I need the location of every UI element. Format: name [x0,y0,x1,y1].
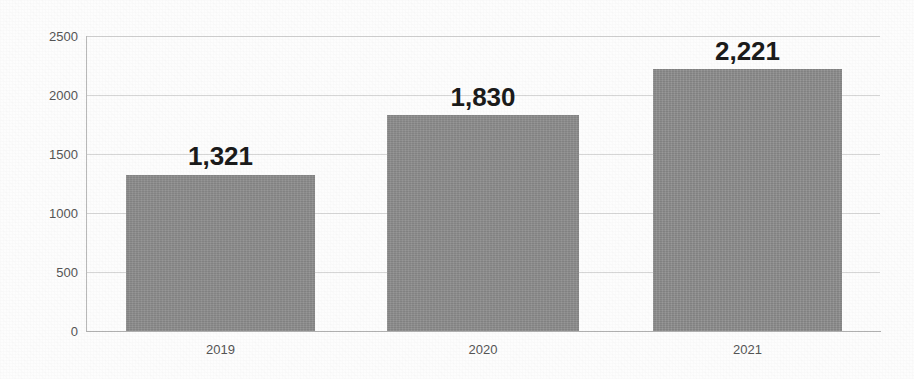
bar-2019 [126,175,315,331]
bar-value-label-2021: 2,221 [653,38,842,64]
x-tick-label-2019: 2019 [126,343,315,356]
bar-2020 [387,115,579,331]
bar-value-label-2020: 1,830 [387,84,579,110]
y-tick-label-500: 500 [56,266,78,279]
y-axis-line [86,36,87,332]
y-tick-label-1000: 1000 [49,207,78,220]
x-tick-label-2020: 2020 [387,343,579,356]
y-tick-label-2500: 2500 [49,30,78,43]
x-axis-line [86,331,881,332]
y-tick-label-2000: 2000 [49,89,78,102]
bar-value-label-2019: 1,321 [126,143,315,169]
y-axis-tick-labels: 2500 2000 1500 1000 500 0 [0,0,78,379]
y-tick-label-0: 0 [71,325,78,338]
y-tick-label-1500: 1500 [49,148,78,161]
x-tick-label-2021: 2021 [653,343,842,356]
bar-chart-figure: 2500 2000 1500 1000 500 0 1,321 1,830 2,… [0,0,914,379]
bar-2021 [653,69,842,331]
plot-area [86,36,880,331]
